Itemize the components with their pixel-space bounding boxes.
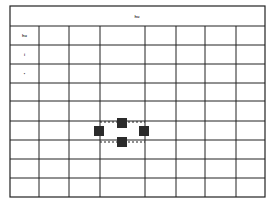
marker-right <box>139 126 149 136</box>
header-label: hu <box>135 14 140 19</box>
row-label: • <box>24 71 26 76</box>
marker-bottom <box>117 137 127 147</box>
row-label: hu <box>22 33 27 38</box>
marker-left <box>94 126 104 136</box>
row-labels: hui• <box>22 33 27 76</box>
marker-top <box>117 118 127 128</box>
grid-diagram: hu hui• <box>0 0 267 208</box>
grid-lines <box>10 6 265 197</box>
row-label: i <box>24 52 25 57</box>
